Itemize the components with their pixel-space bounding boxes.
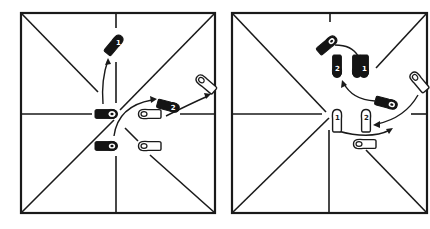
footprint-dark-2: 2	[332, 55, 341, 78]
diagonal-line	[232, 118, 329, 213]
arrowhead-icon	[150, 96, 157, 103]
footprint-light-upper	[139, 109, 162, 118]
footprint-light-bottom	[354, 139, 377, 148]
svg-text:2: 2	[364, 114, 369, 122]
arrowhead-icon	[105, 58, 111, 65]
diagonal-line	[376, 13, 427, 68]
svg-text:1: 1	[116, 39, 121, 47]
step-path-arrow	[103, 60, 108, 104]
right-panel: 2 1 1 2	[232, 13, 430, 213]
footprint-dark-start-lower	[95, 141, 118, 150]
diagonal-line	[232, 13, 326, 112]
diagonal-line	[21, 120, 114, 213]
footprint-light-2: 2	[361, 110, 370, 133]
left-panel: 1 2	[21, 13, 217, 213]
footprint-dark-start-upper	[95, 109, 118, 118]
diagonal-line	[366, 150, 427, 213]
footprint-dark-mid	[374, 96, 398, 111]
footprint-light-1: 1	[332, 110, 341, 133]
step-path-arrow	[343, 82, 375, 101]
dance-step-diagram: 1 2	[0, 0, 430, 229]
svg-text:1: 1	[362, 65, 367, 73]
footprint-dark-1: 1	[103, 33, 126, 58]
svg-text:2: 2	[171, 104, 176, 112]
diagonal-line	[120, 13, 215, 110]
footprint-light-lower	[139, 141, 162, 150]
diagonal-line	[21, 13, 98, 92]
svg-text:1: 1	[335, 114, 340, 122]
arrowhead-icon	[373, 121, 380, 128]
diagonal-line	[150, 155, 215, 213]
step-path-arrow	[335, 45, 358, 56]
svg-text:2: 2	[335, 65, 340, 73]
diagonal-line	[125, 128, 138, 141]
footprint-dark-1-pair: 1	[352, 55, 368, 78]
